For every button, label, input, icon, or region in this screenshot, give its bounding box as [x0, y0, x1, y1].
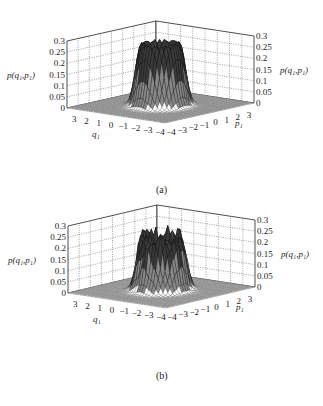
z-tick-label: 0.3 [54, 36, 66, 46]
p-tick-label: 1 [224, 115, 229, 125]
z-tick-label: 0.3 [256, 31, 268, 41]
z-tick-label: 0.1 [54, 81, 65, 91]
z-tick-label: 0.3 [55, 221, 67, 231]
z-axis-label-right: p(q₁,p₁) [280, 249, 309, 259]
panel-b: 00.050.10.150.20.250.300.050.10.150.20.2… [0, 184, 323, 384]
z-tick-label: 0.15 [257, 249, 273, 259]
p-tick-label: 3 [247, 110, 252, 120]
z-tick-label: 0.15 [256, 65, 272, 75]
z-tick-label: 0.2 [54, 58, 65, 68]
z-tick-label: 0.25 [256, 42, 272, 52]
q-tick-label: 2 [84, 116, 89, 126]
z-tick-label: 0 [61, 103, 66, 113]
p-tick-label: −2 [188, 122, 198, 132]
panel-a: 00.050.10.150.20.250.300.050.10.150.20.2… [0, 0, 323, 200]
z-tick-label: 0 [256, 98, 261, 108]
p-tick-label: −4 [167, 312, 177, 322]
z-tick-label: 0.1 [257, 260, 268, 270]
z-axis-label-right: p(q₁,p₁) [279, 65, 308, 75]
q-tick-label: −1 [119, 306, 129, 316]
q-tick-label: −2 [131, 123, 141, 133]
z-axis-label-left: p(q₁,p₁) [6, 70, 35, 80]
p-tick-label: 0 [213, 117, 218, 127]
q-tick-label: 3 [73, 299, 78, 309]
z-axis-right: 00.050.10.150.20.250.3 [256, 31, 272, 108]
z-tick-label: 0.15 [49, 70, 65, 80]
z-tick-label: 0.2 [55, 243, 66, 253]
z-tick-label: 0.1 [256, 76, 267, 86]
p-tick-label: 3 [248, 294, 253, 304]
p-tick-label: 0 [214, 302, 219, 312]
z-axis-left: 00.050.10.150.20.250.3 [50, 221, 66, 298]
p-tick-label: −2 [189, 307, 199, 317]
z-axis-right: 00.050.10.150.20.250.3 [257, 215, 273, 292]
z-axis-label-left: p(q₁,p₁) [7, 255, 36, 265]
caption-b: (b) [156, 370, 168, 381]
z-tick-label: 0.25 [50, 232, 66, 242]
p-tick-label: −3 [177, 125, 187, 135]
z-tick-label: 0 [62, 288, 67, 298]
q-tick-label: −4 [156, 312, 166, 322]
z-tick-label: 0 [257, 282, 262, 292]
p-tick-label: −3 [178, 309, 188, 319]
z-tick-label: 0.2 [257, 237, 268, 247]
p-axis-label: p₁ [234, 118, 243, 128]
q-tick-label: −3 [143, 125, 153, 135]
z-tick-label: 0.15 [50, 255, 66, 265]
p-axis-label: p₁ [235, 302, 244, 312]
p-tick-label: 1 [225, 299, 230, 309]
q-tick-label: −1 [118, 121, 128, 131]
q-tick-label: 1 [98, 303, 103, 313]
z-tick-label: 0.05 [256, 87, 272, 97]
z-tick-label: 0.05 [49, 92, 65, 102]
z-axis-left: 00.050.10.150.20.250.3 [49, 36, 65, 113]
q-axis-label: q₁ [92, 129, 100, 139]
q-tick-label: 0 [109, 120, 114, 130]
z-tick-label: 0.25 [49, 47, 65, 57]
p-tick-label: −1 [200, 120, 210, 130]
q-tick-label: 2 [85, 301, 90, 311]
q-axis-label: q₁ [93, 314, 101, 324]
z-tick-label: 0.2 [256, 53, 267, 63]
surface-plot-a: 00.050.10.150.20.250.300.050.10.150.20.2… [0, 0, 323, 200]
z-tick-label: 0.05 [257, 271, 273, 281]
q-tick-label: 3 [72, 114, 77, 124]
z-tick-label: 0.05 [50, 277, 66, 287]
z-tick-label: 0.25 [257, 226, 273, 236]
q-tick-label: −3 [144, 310, 154, 320]
surface-plot-b: 00.050.10.150.20.250.300.050.10.150.20.2… [0, 184, 323, 384]
q-tick-label: 0 [110, 305, 115, 315]
p-tick-label: −4 [166, 127, 176, 137]
q-tick-label: −2 [132, 308, 142, 318]
z-tick-label: 0.1 [55, 266, 66, 276]
q-tick-label: 1 [97, 118, 102, 128]
p-tick-label: −1 [201, 304, 211, 314]
q-tick-label: −4 [155, 127, 165, 137]
z-tick-label: 0.3 [257, 215, 269, 225]
